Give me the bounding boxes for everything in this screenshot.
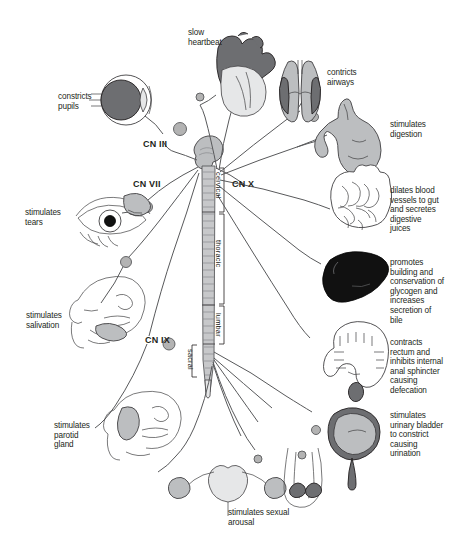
stomach-illustration bbox=[315, 99, 381, 176]
eye-lacrimal-illustration bbox=[76, 193, 151, 247]
label-cn-vii: CN VII bbox=[133, 180, 161, 190]
label-stimulates-salivation: stimulates salivation bbox=[26, 311, 62, 330]
lungs-illustration bbox=[279, 60, 320, 122]
label-cn-iii: CN III bbox=[143, 140, 167, 150]
parasympathetic-nervous-system-diagram: CN III CN VII CN IX CN X cervical thorac… bbox=[0, 0, 466, 549]
label-spinal-lumbar: lumbar bbox=[214, 313, 223, 337]
large-intestine-illustration bbox=[324, 322, 389, 402]
label-cn-ix: CN IX bbox=[145, 336, 170, 346]
label-contracts-rectum-defecation: contracts rectum and inhibits internal a… bbox=[390, 338, 443, 396]
label-dilates-blood-vessels-gut: dilates blood vessels to gut and secrete… bbox=[390, 186, 439, 234]
label-stimulates-sexual-arousal: stimulates sexual arousal bbox=[228, 508, 289, 527]
small-intestine-illustration bbox=[331, 165, 392, 230]
label-slow-heartbeat: slow heartbeat bbox=[188, 28, 222, 47]
label-stimulates-tears: stimulates tears bbox=[25, 208, 61, 227]
face-parotid-illustration bbox=[104, 391, 182, 460]
heart-illustration bbox=[217, 32, 276, 116]
label-stimulates-parotid-gland: stimulates parotid gland bbox=[54, 421, 90, 450]
label-spinal-thoracic: thoracic bbox=[214, 240, 223, 267]
urinary-bladder-illustration bbox=[328, 408, 380, 490]
label-promotes-glycogen-bile: promotes building and conservation of gl… bbox=[390, 258, 444, 325]
label-spinal-cervical: cervical bbox=[214, 172, 223, 199]
label-spinal-sacral: sacral bbox=[186, 349, 195, 370]
label-stimulates-urinary-bladder: stimulates urinary bladder to constrict … bbox=[390, 411, 443, 459]
eye-cross-section-illustration bbox=[89, 75, 152, 125]
label-cn-x: CN X bbox=[232, 180, 254, 190]
label-constricts-pupils: constricts pupils bbox=[58, 92, 92, 111]
liver-illustration bbox=[323, 252, 389, 303]
face-submandibular-illustration bbox=[70, 276, 146, 348]
label-stimulates-digestion: stimulates digestion bbox=[390, 120, 426, 139]
label-contricts-airways: contricts airways bbox=[327, 68, 357, 87]
